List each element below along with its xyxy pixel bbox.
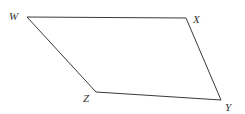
vertex-label-x: X (192, 13, 201, 25)
vertex-label-y: Y (225, 101, 233, 113)
vertex-label-z: Z (83, 92, 90, 104)
vertex-label-w: W (9, 10, 19, 22)
quadrilateral-wxyz (27, 17, 221, 100)
quadrilateral-diagram: W X Y Z (0, 0, 245, 114)
